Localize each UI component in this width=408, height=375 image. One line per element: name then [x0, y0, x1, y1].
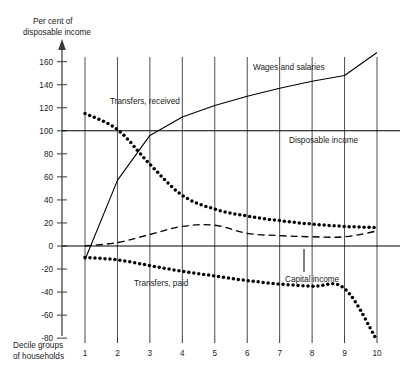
- series-dot: [217, 275, 221, 279]
- series-dot: [362, 225, 366, 229]
- chart-background: [0, 0, 408, 375]
- series-dot: [246, 279, 250, 283]
- series-dot: [182, 194, 186, 198]
- series-dot: [88, 114, 92, 118]
- series-dot: [132, 145, 136, 149]
- series-dot: [243, 214, 247, 218]
- series-dot: [351, 296, 355, 300]
- series-dot: [157, 266, 161, 270]
- series-dot: [357, 225, 361, 229]
- x-axis-title-line1: Decile groups: [13, 341, 63, 350]
- series-dot: [159, 174, 163, 178]
- series-dot: [102, 119, 106, 123]
- series-dot: [156, 171, 160, 175]
- series-dot: [186, 197, 190, 201]
- series-dot: [163, 178, 167, 182]
- x-tick-label-2: 2: [115, 349, 120, 358]
- y-tick-label-20: 20: [44, 219, 54, 228]
- series-dot: [162, 266, 166, 270]
- series-dot: [301, 284, 305, 288]
- series-dot: [342, 225, 346, 229]
- series-dot: [340, 285, 344, 289]
- series-dot: [251, 280, 255, 284]
- series-dot: [106, 122, 110, 126]
- series-dot: [166, 181, 170, 185]
- series-dot: [142, 156, 146, 160]
- transfers-paid-label: Transfers, paid: [134, 279, 189, 288]
- series-dot: [242, 278, 246, 282]
- series-dot: [170, 185, 174, 189]
- series-dot: [93, 256, 97, 260]
- series-dot: [113, 258, 117, 262]
- series-dot: [268, 218, 272, 222]
- series-dot: [332, 224, 336, 228]
- series-dot: [118, 258, 122, 262]
- series-dot: [232, 277, 236, 281]
- series-dot: [83, 112, 87, 116]
- series-dot: [197, 272, 201, 276]
- series-dot: [356, 304, 360, 308]
- series-dot: [145, 160, 149, 164]
- series-dot: [227, 276, 231, 280]
- series-dot: [103, 257, 107, 261]
- series-dot: [110, 124, 114, 128]
- series-dot: [266, 281, 270, 285]
- series-dot: [258, 216, 262, 220]
- series-dot: [233, 212, 237, 216]
- series-dot: [348, 292, 352, 296]
- series-dot: [223, 210, 227, 214]
- series-dot: [228, 211, 232, 215]
- series-dot: [172, 268, 176, 272]
- y-axis-title-line2: disposable income: [23, 28, 91, 37]
- series-dot: [276, 282, 280, 286]
- series-dot: [177, 269, 181, 273]
- series-dot: [316, 284, 320, 288]
- series-dot: [190, 199, 194, 203]
- series-dot: [344, 288, 348, 292]
- y-tick-label-40: 40: [44, 196, 54, 205]
- series-dot: [352, 225, 356, 229]
- series-dot: [88, 256, 92, 260]
- x-tick-label-4: 4: [180, 349, 185, 358]
- x-tick-label-1: 1: [83, 349, 88, 358]
- y-tick-label-100: 100: [39, 127, 53, 136]
- series-dot: [174, 188, 178, 192]
- series-dot: [288, 220, 292, 224]
- x-tick-label-9: 9: [342, 349, 347, 358]
- series-dot: [199, 203, 203, 207]
- series-dot: [195, 201, 199, 205]
- series-dot: [283, 219, 287, 223]
- series-dot: [364, 317, 368, 321]
- series-dot: [128, 260, 132, 264]
- series-dot: [93, 116, 97, 120]
- series-dot: [311, 285, 315, 289]
- series-dot: [152, 167, 156, 171]
- series-dot: [248, 215, 252, 219]
- series-dot: [347, 225, 351, 229]
- series-dot: [372, 226, 376, 230]
- series-dot: [115, 127, 119, 131]
- y-tick-label-80: 80: [44, 150, 54, 159]
- y-tick-label-60: 60: [44, 173, 54, 182]
- capital-income-label: Capital income: [285, 275, 340, 284]
- series-dot: [237, 278, 241, 282]
- series-dot: [271, 282, 275, 286]
- series-dot: [307, 222, 311, 226]
- y-axis-title-line1: Per cent of: [33, 17, 73, 26]
- series-dot: [354, 300, 358, 304]
- series-dot: [317, 223, 321, 227]
- y-tick-label--80: -80: [41, 334, 53, 343]
- x-tick-label-7: 7: [277, 349, 282, 358]
- series-dot: [312, 223, 316, 227]
- series-dot: [273, 218, 277, 222]
- series-dot: [98, 257, 102, 261]
- y-tick-label--20: -20: [41, 265, 53, 274]
- series-dot: [133, 261, 137, 265]
- x-axis-title-line2: of households: [13, 352, 64, 361]
- series-dot: [218, 209, 222, 213]
- wages-and-salaries-label: Wages and salaries: [253, 63, 325, 72]
- series-dot: [182, 270, 186, 274]
- series-dot: [108, 257, 112, 261]
- x-tick-label-10: 10: [372, 349, 382, 358]
- series-dot: [187, 271, 191, 275]
